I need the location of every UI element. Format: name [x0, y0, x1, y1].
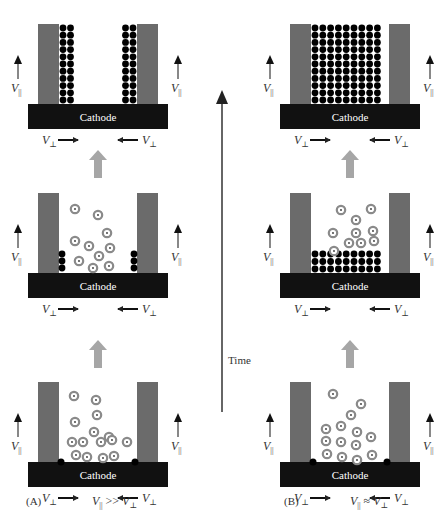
v-parallel-label-left: V||: [263, 81, 274, 97]
pore-wall-left: [290, 382, 311, 462]
deposit-atom: [60, 82, 67, 89]
deposit-atom: [327, 25, 334, 32]
deposit-atom: [366, 61, 373, 68]
deposit-atom: [343, 97, 350, 104]
deposit-atom: [335, 61, 342, 68]
deposit-atom: [60, 75, 67, 82]
deposit-atom: [312, 32, 319, 39]
ion: [368, 451, 376, 459]
deposit-atom: [312, 258, 319, 265]
progress-arrow-a-upper: [94, 158, 102, 178]
deposit-atom: [60, 32, 67, 39]
time-axis-label: Time: [228, 354, 251, 366]
ion-core: [355, 232, 357, 234]
pore-wall-left: [38, 24, 59, 104]
deposit-atom: [327, 82, 334, 89]
deposit-atom: [60, 61, 67, 68]
deposit-atom: [374, 68, 381, 75]
ion: [329, 229, 337, 237]
deposit-atom: [59, 265, 66, 272]
deposit-atom: [131, 258, 138, 265]
deposit-atom: [343, 68, 350, 75]
ion-core: [86, 456, 88, 458]
v-parallel-label-right: V||: [423, 439, 434, 455]
ion: [352, 441, 360, 449]
ion: [367, 433, 375, 441]
deposit-atom: [351, 258, 358, 265]
deposit-atom: [358, 46, 365, 53]
cell-b-stage-2: CathodeV||V||V⊥V⊥: [263, 24, 434, 149]
deposit-atom: [366, 68, 373, 75]
deposit-atom: [351, 75, 358, 82]
deposit-atom: [335, 46, 342, 53]
deposit-atom: [358, 266, 365, 273]
cathode-label: Cathode: [332, 469, 369, 481]
deposit-atom: [122, 25, 129, 32]
cell-b-stage-0: CathodeV||V||V⊥V⊥: [263, 382, 434, 507]
ion-core: [88, 245, 90, 247]
deposit-atom: [122, 53, 129, 60]
ion: [352, 229, 360, 237]
v-perp-label-right: V⊥: [394, 491, 409, 507]
ion-core: [75, 454, 77, 456]
deposit-atom: [60, 25, 67, 32]
ion-core: [73, 395, 75, 397]
v-perp-label-right: V⊥: [394, 302, 409, 318]
ion: [71, 418, 79, 426]
arrowhead-icon: [174, 224, 182, 233]
v-perp-label-left: V⊥: [294, 302, 309, 318]
deposit-atom: [59, 251, 66, 258]
cathode-label: Cathode: [332, 280, 369, 292]
progress-arrow-b-lower: [346, 348, 354, 368]
deposit-atom: [122, 68, 129, 75]
deposit-atom: [130, 25, 137, 32]
deposit-atom: [319, 258, 326, 265]
deposit-atom: [312, 39, 319, 46]
deposit-atom: [319, 68, 326, 75]
ion-core: [74, 240, 76, 242]
deposit-atom: [319, 39, 326, 46]
ion-core: [333, 250, 335, 252]
deposit-atom: [358, 39, 365, 46]
cell-a-stage-0: CathodeV||V||V⊥V⊥: [11, 382, 182, 507]
ion: [99, 454, 107, 462]
ion: [322, 437, 330, 445]
deposit-atom: [366, 53, 373, 60]
ion-core: [350, 414, 352, 416]
deposit-atom: [312, 251, 319, 258]
ion: [92, 396, 100, 404]
deposit-atom: [366, 97, 373, 104]
ion-core: [74, 208, 76, 210]
time-axis-arrowhead-icon: [216, 90, 228, 104]
deposit-atom: [319, 89, 326, 96]
deposit-atom: [374, 75, 381, 82]
deposit-atom: [312, 25, 319, 32]
deposit-atom: [60, 46, 67, 53]
deposit-atom: [122, 32, 129, 39]
arrowhead-icon: [426, 413, 434, 422]
v-perp-label-right: V⊥: [394, 133, 409, 149]
deposit-atom: [312, 68, 319, 75]
cathode-label: Cathode: [80, 280, 117, 292]
panel-a-caption-letter: (A): [26, 495, 42, 508]
progress-arrow-b-upper: [346, 158, 354, 178]
ion: [71, 237, 79, 245]
ion-core: [92, 267, 94, 269]
deposit-atom: [327, 266, 334, 273]
deposit-atom: [374, 46, 381, 53]
deposit-atom: [358, 251, 365, 258]
v-parallel-label-left: V||: [263, 439, 274, 455]
deposit-atom: [319, 82, 326, 89]
v-parallel-label-left: V||: [11, 81, 22, 97]
ion-core: [126, 441, 128, 443]
ion: [93, 411, 101, 419]
progress-arrow-a-lower: [94, 348, 102, 368]
ion: [357, 400, 365, 408]
cell-a-stage-1: CathodeV||V||V⊥V⊥: [11, 193, 182, 318]
ion-core: [98, 255, 100, 257]
ion-core: [102, 457, 104, 459]
ion-core: [370, 208, 372, 210]
ion-core: [106, 232, 108, 234]
deposit-atom: [327, 68, 334, 75]
ion: [103, 229, 111, 237]
